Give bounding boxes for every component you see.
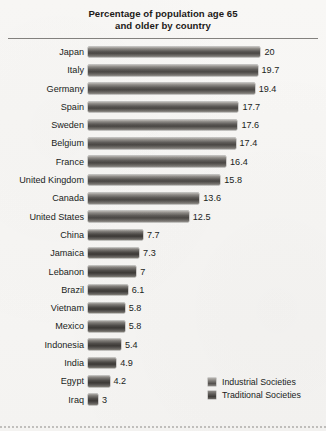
bar-track: 16.4 [88, 153, 326, 171]
bar-rows-container: Japan20Italy19.7Germany19.4Spain17.7Swed… [0, 43, 326, 409]
bar-traditional [88, 394, 98, 405]
bar-track: 17.4 [88, 134, 326, 152]
bar-row: Canada13.6 [0, 189, 326, 207]
bar-industrial [88, 193, 199, 204]
bar-track: 15.8 [88, 171, 326, 189]
category-label: France [0, 157, 88, 167]
bar-track: 5.4 [88, 336, 326, 354]
chart-legend: Industrial SocietiesTraditional Societie… [208, 377, 301, 400]
bar-value-label: 20 [264, 47, 274, 57]
category-label: Brazil [0, 285, 88, 295]
category-label: Mexico [0, 321, 88, 331]
bar-value-label: 5.8 [129, 303, 142, 313]
title-divider-rule [8, 38, 318, 39]
category-label: India [0, 358, 88, 368]
bar-row: Vietnam5.8 [0, 299, 326, 317]
bar-row: United Kingdom15.8 [0, 171, 326, 189]
category-label: Egypt [0, 376, 88, 386]
bar-traditional [88, 321, 125, 332]
bar-row: United States12.5 [0, 207, 326, 225]
bar-value-label: 4.9 [120, 358, 133, 368]
bar-track: 5.8 [88, 317, 326, 335]
bar-row: India4.9 [0, 354, 326, 372]
bar-traditional [88, 248, 139, 259]
category-label: Vietnam [0, 303, 88, 313]
bar-value-label: 17.7 [242, 102, 260, 112]
bar-row: Brazil6.1 [0, 281, 326, 299]
bar-row: Germany19.4 [0, 79, 326, 97]
bar-track: 20 [88, 43, 326, 61]
bar-track: 7.3 [88, 244, 326, 262]
category-label: Lebanon [0, 267, 88, 277]
legend-item-traditional[interactable]: Traditional Societies [208, 390, 301, 400]
bar-track: 7.7 [88, 226, 326, 244]
category-label: Belgium [0, 138, 88, 148]
bar-traditional [88, 230, 143, 241]
bar-industrial [88, 83, 255, 94]
legend-label: Industrial Societies [222, 377, 296, 387]
bar-value-label: 19.7 [262, 65, 280, 75]
chart-title: Percentage of population age 65 and olde… [0, 0, 326, 33]
bar-track: 13.6 [88, 189, 326, 207]
bar-track: 19.4 [88, 79, 326, 97]
bar-industrial [88, 47, 260, 58]
category-label: China [0, 230, 88, 240]
category-label: Sweden [0, 120, 88, 130]
bar-value-label: 7.3 [143, 248, 156, 258]
bar-traditional [88, 376, 110, 387]
bar-track: 4.9 [88, 354, 326, 372]
bar-industrial [88, 138, 236, 149]
bar-track: 7 [88, 262, 326, 280]
bar-value-label: 12.5 [193, 212, 211, 222]
category-label: Iraq [0, 395, 88, 405]
chart-title-line-1: Percentage of population age 65 [22, 8, 304, 20]
bar-value-label: 19.4 [259, 84, 277, 94]
legend-swatch-icon [208, 391, 216, 399]
category-label: Spain [0, 102, 88, 112]
bar-track: 17.6 [88, 116, 326, 134]
bar-row: Italy19.7 [0, 61, 326, 79]
legend-label: Traditional Societies [222, 390, 301, 400]
category-label: Indonesia [0, 340, 88, 350]
bar-value-label: 15.8 [224, 175, 242, 185]
legend-item-industrial[interactable]: Industrial Societies [208, 377, 301, 387]
bar-industrial [88, 156, 226, 167]
bar-row: Lebanon7 [0, 262, 326, 280]
bar-track: 17.7 [88, 98, 326, 116]
category-label: Japan [0, 47, 88, 57]
bar-row: Belgium17.4 [0, 134, 326, 152]
bar-traditional [88, 285, 128, 296]
bar-value-label: 17.6 [241, 120, 259, 130]
bar-industrial [88, 120, 237, 131]
chart-title-line-2: and older by country [22, 20, 304, 32]
category-label: United States [0, 212, 88, 222]
category-label: United Kingdom [0, 175, 88, 185]
chart-figure: Percentage of population age 65 and olde… [0, 0, 326, 431]
bar-track: 12.5 [88, 207, 326, 225]
bar-value-label: 5.4 [125, 340, 138, 350]
category-label: Italy [0, 65, 88, 75]
bottom-dotted-edge [0, 426, 326, 428]
bar-value-label: 6.1 [132, 285, 145, 295]
bar-value-label: 7.7 [147, 230, 160, 240]
bar-row: Jamaica7.3 [0, 244, 326, 262]
bar-value-label: 5.8 [129, 321, 142, 331]
legend-swatch-icon [208, 378, 216, 386]
category-label: Jamaica [0, 248, 88, 258]
bar-value-label: 3 [102, 395, 107, 405]
bar-track: 6.1 [88, 281, 326, 299]
bar-value-label: 16.4 [230, 157, 248, 167]
bar-traditional [88, 266, 136, 277]
bar-row: Sweden17.6 [0, 116, 326, 134]
bar-traditional [88, 303, 125, 314]
bar-value-label: 4.2 [114, 376, 127, 386]
bar-industrial [88, 102, 238, 113]
bar-row: France16.4 [0, 153, 326, 171]
bar-industrial [88, 211, 189, 222]
bar-row: Indonesia5.4 [0, 336, 326, 354]
bar-row: China7.7 [0, 226, 326, 244]
bar-value-label: 13.6 [203, 193, 221, 203]
bar-row: Japan20 [0, 43, 326, 61]
bar-track: 19.7 [88, 61, 326, 79]
bar-industrial [88, 175, 220, 186]
